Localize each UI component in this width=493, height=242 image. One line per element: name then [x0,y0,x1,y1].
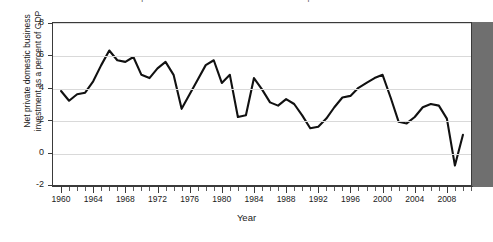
x-tick-mark-1977 [198,187,199,191]
x-tick-mark-1971 [149,187,150,191]
x-tick-mark-2010 [463,187,464,191]
x-tick-mark-1976 [190,187,191,193]
y-tick-label-4: 4 [24,82,44,92]
gridline-2 [53,121,471,122]
x-tick-mark-1973 [166,187,167,191]
x-tick-mark-2006 [431,187,432,191]
x-tick-mark-1990 [302,187,303,191]
x-tick-mark-1987 [278,187,279,191]
gridline-0 [53,154,471,155]
x-tick-mark-2005 [423,187,424,191]
x-tick-mark-1995 [342,187,343,191]
y-axis-label-line1: Net private domestic business [22,14,32,127]
x-tick-mark-2001 [391,187,392,191]
x-tick-mark-1964 [93,187,94,193]
x-tick-label-1964: 1964 [76,194,110,204]
y-tick-mark-0 [48,153,52,154]
y-tick-label--2: -2 [24,179,44,189]
x-tick-mark-1963 [85,187,86,191]
x-tick-mark-2002 [399,187,400,191]
x-tick-mark-1980 [222,187,223,193]
x-tick-mark-1999 [375,187,376,191]
x-tick-mark-1967 [117,187,118,191]
x-tick-label-1980: 1980 [205,194,239,204]
x-tick-mark-1993 [326,187,327,191]
x-tick-mark-1965 [101,187,102,191]
x-tick-label-1996: 1996 [333,194,367,204]
x-tick-label-1972: 1972 [141,194,175,204]
x-tick-mark-1991 [310,187,311,191]
x-tick-label-1988: 1988 [269,194,303,204]
x-tick-label-2000: 2000 [366,194,400,204]
y-tick-label-2: 2 [24,114,44,124]
x-tick-mark-1974 [174,187,175,191]
chart-title: Net private domestic business investment… [0,0,493,4]
plot-area [52,22,472,186]
x-tick-mark-1978 [206,187,207,191]
x-tick-label-1960: 1960 [44,194,78,204]
x-tick-mark-1988 [286,187,287,193]
x-tick-label-1968: 1968 [108,194,142,204]
x-tick-mark-1969 [133,187,134,191]
gridline-6 [53,56,471,57]
y-tick-mark-8 [48,23,52,24]
x-tick-mark-1966 [109,187,110,191]
x-tick-label-1976: 1976 [173,194,207,204]
x-axis-label: Year [0,212,493,223]
x-tick-mark-1981 [230,187,231,191]
x-tick-mark-1961 [69,187,70,191]
x-tick-mark-1983 [246,187,247,191]
y-tick-label-0: 0 [24,147,44,157]
x-tick-mark-1994 [334,187,335,191]
x-tick-mark-2003 [407,187,408,191]
gridline-4 [53,89,471,90]
x-tick-mark-2011 [471,187,472,191]
x-tick-mark-2000 [383,187,384,193]
x-tick-mark-1986 [270,187,271,191]
x-tick-label-2004: 2004 [398,194,432,204]
x-tick-mark-2004 [415,187,416,193]
x-tick-mark-1985 [262,187,263,191]
y-tick-mark-2 [48,120,52,121]
x-tick-label-1992: 1992 [301,194,335,204]
x-tick-mark-1960 [61,187,62,193]
y-axis-label-line2: investment as a percent of GDP [33,11,43,131]
x-tick-mark-1982 [238,187,239,191]
x-tick-mark-1962 [77,187,78,191]
x-tick-mark-2008 [447,187,448,193]
x-tick-mark-1989 [294,187,295,191]
x-tick-mark-1972 [158,187,159,193]
x-tick-mark-2007 [439,187,440,191]
gridline-8 [53,23,471,24]
x-tick-label-1984: 1984 [237,194,271,204]
x-tick-mark-2009 [455,187,456,191]
x-tick-mark-1992 [318,187,319,193]
y-tick-label-6: 6 [24,49,44,59]
chart-figure: Net private domestic business investment… [0,0,493,242]
x-tick-mark-1968 [125,187,126,193]
data-line-chart [53,23,471,185]
y-tick-label-8: 8 [24,17,44,27]
data-series-line [61,51,463,166]
x-tick-mark-1998 [367,187,368,191]
x-tick-mark-1975 [182,187,183,191]
x-tick-mark-1996 [350,187,351,193]
x-tick-mark-1997 [358,187,359,191]
x-tick-mark-1970 [141,187,142,191]
x-tick-mark-1979 [214,187,215,191]
y-tick-mark-6 [48,55,52,56]
x-tick-label-2008: 2008 [430,194,464,204]
y-tick-mark-4 [48,88,52,89]
x-tick-mark-1984 [254,187,255,193]
